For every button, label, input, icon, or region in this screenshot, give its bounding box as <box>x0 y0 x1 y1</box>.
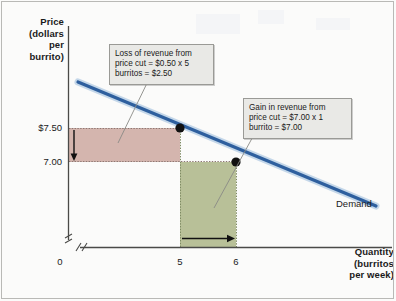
revenue-gain-callout-line-3: burrito = $7.00 <box>249 123 346 133</box>
y-axis-title-line-2: (dollars <box>2 28 64 40</box>
y-axis-title-line-3: per <box>2 39 64 51</box>
demand-curve-label: Demand <box>336 198 372 209</box>
revenue-loss-region <box>69 128 180 162</box>
y-axis-title-line-4: burrito) <box>2 51 64 63</box>
y-axis-title-line-1: Price <box>2 16 64 28</box>
y-tick-label-700: 7.00 <box>10 156 62 167</box>
x-axis-title-line-2: (burritos <box>326 258 394 270</box>
revenue-loss-callout-line-2: price cut = $0.50 x 5 <box>115 59 208 69</box>
x-tick-label-5: 5 <box>172 256 188 267</box>
x-axis-title: Quantity (burritos per week) <box>326 246 394 281</box>
x-tick-label-6: 6 <box>228 256 244 267</box>
revenue-gain-callout: Gain in revenue from price cut = $7.00 x… <box>243 98 352 139</box>
revenue-loss-callout-line-3: burritos = $2.50 <box>115 69 208 79</box>
y-tick-label-750: $7.50 <box>10 122 62 133</box>
data-point-original <box>175 123 184 132</box>
x-tick-label-origin: 0 <box>52 256 68 267</box>
revenue-loss-callout: Loss of revenue from price cut = $0.50 x… <box>109 44 214 85</box>
revenue-gain-callout-line-1: Gain in revenue from <box>249 103 346 113</box>
demand-curve-figure: Price (dollars per burrito) Quantity (bu… <box>0 0 396 301</box>
x-axis-title-line-3: per week) <box>326 269 394 281</box>
x-axis-title-line-1: Quantity <box>326 246 394 258</box>
revenue-loss-callout-line-1: Loss of revenue from <box>115 49 208 59</box>
y-axis-title: Price (dollars per burrito) <box>2 16 64 62</box>
revenue-gain-callout-line-2: price cut = $7.00 x 1 <box>249 113 346 123</box>
